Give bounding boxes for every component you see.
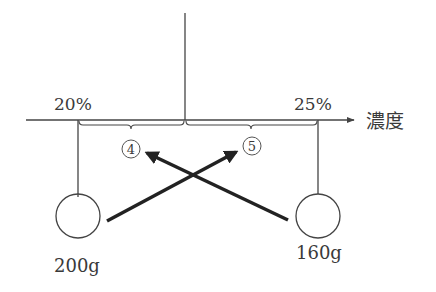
left-mass-label: 200g xyxy=(54,255,100,276)
right-concentration-label: 25% xyxy=(294,94,332,114)
right-mass-label: 160g xyxy=(296,242,342,263)
svg-text:5: 5 xyxy=(248,139,256,154)
mixing-ratio-diagram: 4 5 20% 25% 濃度 200g 160g xyxy=(0,0,436,292)
ratio-marker-5: 5 xyxy=(243,137,261,155)
ratio-marker-4: 4 xyxy=(122,140,140,158)
axis-label: 濃度 xyxy=(366,110,404,132)
left-weight-circle xyxy=(56,194,100,238)
right-weight-circle xyxy=(296,194,340,238)
right-segment-brace xyxy=(186,121,317,129)
svg-text:4: 4 xyxy=(127,142,135,157)
left-concentration-label: 20% xyxy=(54,94,92,114)
left-segment-brace xyxy=(79,121,184,129)
